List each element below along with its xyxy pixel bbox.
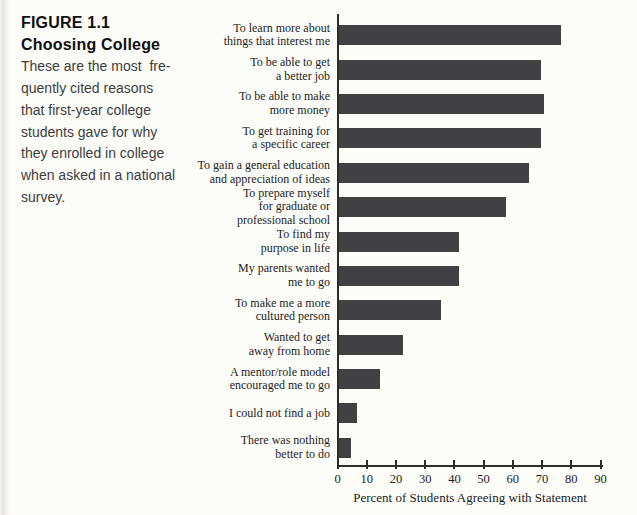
bar: [339, 403, 357, 423]
axis-tick: [366, 460, 368, 469]
chart-rows: To learn more aboutthings that interest …: [182, 18, 627, 465]
bar-chart: To learn more aboutthings that interest …: [182, 18, 627, 513]
bar-label-line: To prepare myself: [182, 187, 330, 201]
caption-line: that first-year college: [21, 100, 193, 122]
page-edge-shadow: [0, 0, 10, 515]
bar-label-line: There was nothing: [182, 434, 330, 448]
chart-row: To gain a general educationand appreciat…: [182, 156, 627, 190]
axis-tick-label: 70: [536, 472, 549, 487]
axis-tick-label: 50: [477, 472, 490, 487]
axis-tick-label: 90: [594, 472, 607, 487]
chart-row: To learn more aboutthings that interest …: [182, 18, 627, 52]
axis-tick-label: 60: [507, 472, 520, 487]
figure-caption: These are the most fre-quently cited rea…: [21, 56, 193, 209]
caption-line: students gave for why: [21, 122, 193, 144]
bar-label-line: for graduate or: [182, 200, 330, 214]
axis-tick: [570, 460, 572, 469]
bar-label: To learn more aboutthings that interest …: [182, 22, 337, 49]
bar-label-line: To be able to make: [182, 90, 330, 104]
bar-label-line: professional school: [182, 214, 330, 228]
bar-label-line: To learn more about: [182, 22, 330, 36]
bar-label-line: To gain a general education: [182, 159, 330, 173]
axis-tick: [541, 460, 543, 469]
bar-label: My parents wantedme to go: [182, 262, 337, 289]
bar-label-line: My parents wanted: [182, 262, 330, 276]
axis-tick-label: 10: [360, 472, 373, 487]
bar: [339, 266, 459, 286]
caption-line: survey.: [21, 187, 193, 209]
axis-tick: [512, 460, 514, 469]
caption-line: These are the most fre-: [21, 56, 193, 78]
chart-row: To get training fora specific career: [182, 121, 627, 155]
x-axis-title: Percent of Students Agreeing with Statem…: [337, 490, 603, 506]
axis-tick-label: 30: [419, 472, 432, 487]
bar: [339, 197, 506, 217]
axis-tick: [424, 460, 426, 469]
axis-tick: [337, 460, 339, 469]
bar-label-line: To get training for: [182, 125, 330, 139]
axis-tick: [453, 460, 455, 469]
axis-tick-label: 0: [334, 472, 340, 487]
bar-label: To make me a morecultured person: [182, 297, 337, 324]
axis-tick: [395, 460, 397, 469]
bar-label-line: I could not find a job: [182, 407, 330, 421]
axis-tick-label: 20: [390, 472, 403, 487]
figure-label: FIGURE 1.1: [21, 12, 193, 34]
bar: [339, 94, 544, 114]
bar-label-line: me to go: [182, 276, 330, 290]
bar-label: To be able to geta better job: [182, 56, 337, 83]
bar-label-line: To be able to get: [182, 56, 330, 70]
bar-label-line: away from home: [182, 345, 330, 359]
bar: [339, 335, 403, 355]
caption-line: they enrolled in college: [21, 143, 193, 165]
bar-label-line: a specific career: [182, 138, 330, 152]
bar-label: To prepare myselffor graduate orprofessi…: [182, 187, 337, 228]
chart-row: Wanted to getaway from home: [182, 328, 627, 362]
bar-label-line: more money: [182, 104, 330, 118]
bar-label-line: To find my: [182, 228, 330, 242]
bar: [339, 60, 541, 80]
x-axis-line: [337, 465, 603, 467]
bar-label: There was nothingbetter to do: [182, 434, 337, 461]
bar-label-line: encouraged me to go: [182, 379, 330, 393]
chart-row: My parents wantedme to go: [182, 259, 627, 293]
bar: [339, 438, 351, 458]
bar: [339, 163, 529, 183]
bar-label: To get training fora specific career: [182, 125, 337, 152]
bar-label: To find mypurpose in life: [182, 228, 337, 255]
bar: [339, 232, 459, 252]
bar-label-line: and appreciation of ideas: [182, 173, 330, 187]
axis-tick: [600, 460, 602, 469]
bar: [339, 369, 380, 389]
bar-label-line: better to do: [182, 448, 330, 462]
bar-label-line: A mentor/role model: [182, 366, 330, 380]
axis-tick-label: 40: [448, 472, 461, 487]
caption-line: when asked in a national: [21, 165, 193, 187]
bar-label-line: purpose in life: [182, 242, 330, 256]
x-axis: Percent of Students Agreeing with Statem…: [337, 465, 627, 513]
bar: [339, 300, 441, 320]
bar: [339, 128, 541, 148]
bar-label: Wanted to getaway from home: [182, 331, 337, 358]
chart-row: There was nothingbetter to do: [182, 431, 627, 465]
chart-row: To find mypurpose in life: [182, 224, 627, 258]
axis-tick: [483, 460, 485, 469]
figure-title: Choosing College: [21, 34, 193, 56]
bar-label: To gain a general educationand appreciat…: [182, 159, 337, 186]
bar: [339, 25, 561, 45]
bar-label-line: Wanted to get: [182, 331, 330, 345]
chart-row: To prepare myselffor graduate orprofessi…: [182, 190, 627, 224]
bar-label-line: a better job: [182, 70, 330, 84]
chart-row: To be able to makemore money: [182, 87, 627, 121]
chart-row: A mentor/role modelencouraged me to go: [182, 362, 627, 396]
axis-tick-label: 80: [565, 472, 578, 487]
chart-row: To be able to geta better job: [182, 52, 627, 86]
chart-row: To make me a morecultured person: [182, 293, 627, 327]
bar-label: I could not find a job: [182, 407, 337, 421]
bar-label: To be able to makemore money: [182, 90, 337, 117]
bar-label: A mentor/role modelencouraged me to go: [182, 366, 337, 393]
bar-label-line: To make me a more: [182, 297, 330, 311]
bar-label-line: cultured person: [182, 310, 330, 324]
figure-sidebar: FIGURE 1.1 Choosing College These are th…: [21, 12, 193, 209]
caption-line: quently cited reasons: [21, 78, 193, 100]
